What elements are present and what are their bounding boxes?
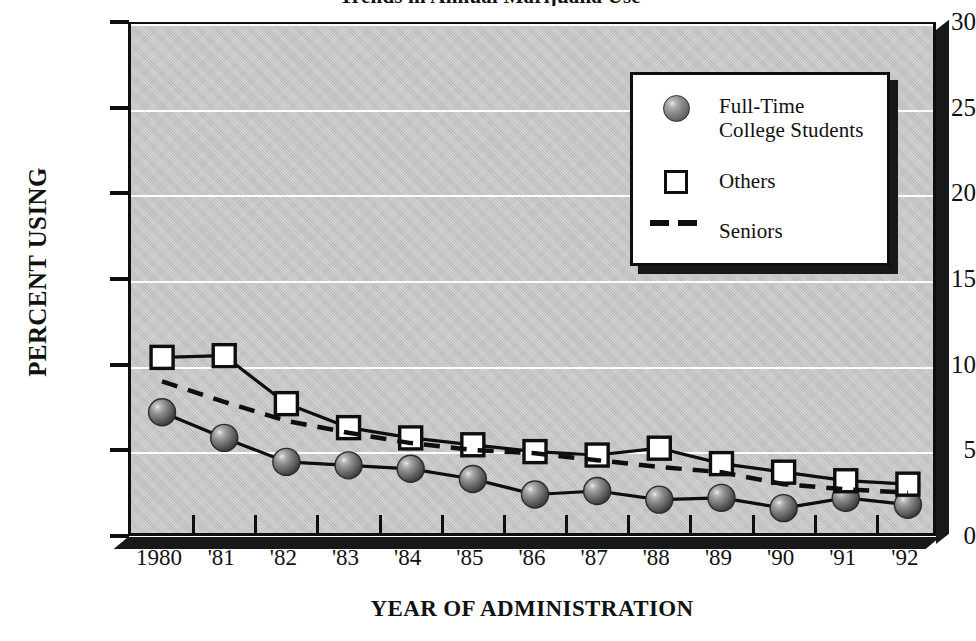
- x-axis-tick-label: '87: [581, 545, 608, 571]
- y-axis-tick: [110, 363, 129, 367]
- data-point-square: [648, 437, 670, 459]
- data-point-square: [275, 393, 297, 415]
- y-axis-tick: [110, 191, 129, 195]
- data-point-sphere: [459, 466, 486, 493]
- legend-label: Full-TimeCollege Students: [719, 95, 864, 142]
- data-point-sphere: [770, 495, 797, 522]
- chart-legend: Full-TimeCollege Students Others Seniors: [630, 72, 890, 266]
- chart-figure: Trends in Annual Marijuana Use PERCENT U…: [0, 0, 976, 641]
- data-point-square: [213, 345, 235, 367]
- data-point-sphere: [584, 478, 611, 505]
- data-point-sphere: [397, 455, 424, 482]
- chart-title: Trends in Annual Marijuana Use: [280, 0, 700, 6]
- square-marker-icon: [633, 170, 719, 194]
- y-axis-tick: [110, 277, 129, 281]
- y-axis-title: PERCENT USING: [24, 52, 52, 492]
- x-axis-tick-label: '91: [829, 545, 856, 571]
- x-axis-tick-label: 1980: [136, 545, 182, 571]
- x-axis-tick-label: '88: [643, 545, 670, 571]
- data-point-sphere: [522, 481, 549, 508]
- legend-label: Seniors: [719, 220, 783, 244]
- y-axis-tick: [110, 448, 129, 452]
- data-point-square: [773, 461, 795, 483]
- y-axis-tick: [110, 106, 129, 110]
- x-axis-tick-label: '81: [208, 545, 235, 571]
- dashed-line-marker-icon: [633, 220, 719, 226]
- x-axis-tick-label: '85: [456, 545, 483, 571]
- data-point-sphere: [149, 399, 176, 426]
- sphere-marker-icon: [633, 95, 719, 122]
- data-point-square: [400, 427, 422, 449]
- x-axis-tick-label: '92: [891, 545, 918, 571]
- x-axis-tick-label: '84: [394, 545, 421, 571]
- x-axis-tick-label: '82: [270, 545, 297, 571]
- x-axis-title: YEAR OF ADMINISTRATION: [128, 596, 936, 622]
- data-point-square: [151, 346, 173, 368]
- data-point-sphere: [335, 452, 362, 479]
- data-point-sphere: [211, 424, 238, 451]
- y-axis-tick: [110, 20, 129, 24]
- legend-item-full-time-college-students[interactable]: Full-TimeCollege Students: [633, 95, 887, 142]
- x-axis-tick-label: '89: [705, 545, 732, 571]
- data-point-sphere: [646, 486, 673, 513]
- x-axis-tick-label: '90: [767, 545, 794, 571]
- legend-label: Others: [719, 170, 776, 194]
- data-point-sphere: [708, 484, 735, 511]
- x-axis-tick-label: '83: [332, 545, 359, 571]
- x-axis-tick-label: '86: [518, 545, 545, 571]
- legend-item-others[interactable]: Others: [633, 170, 887, 194]
- legend-item-seniors[interactable]: Seniors: [633, 220, 887, 244]
- data-point-sphere: [273, 448, 300, 475]
- data-point-square: [586, 444, 608, 466]
